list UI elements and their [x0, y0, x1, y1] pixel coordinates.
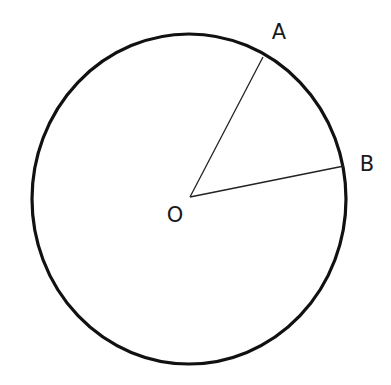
label-point-a: A: [272, 20, 287, 44]
circle: [32, 34, 346, 364]
circle-diagram: O A B: [0, 0, 391, 385]
radius-ob: [190, 166, 344, 197]
label-center-o: O: [167, 203, 184, 227]
radius-oa: [190, 57, 263, 197]
label-point-b: B: [360, 152, 374, 176]
